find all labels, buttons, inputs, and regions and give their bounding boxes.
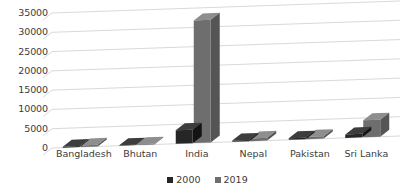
bar-series-group	[0, 0, 415, 160]
y-axis-tick-label: 25000	[2, 47, 48, 57]
x-axis-tick-label: Sri Lanka	[321, 148, 411, 160]
legend-label: 2000	[176, 175, 200, 185]
x-axis: BangladeshBhutanIndiaNepalPakistanSri La…	[0, 148, 415, 166]
plot-area	[0, 0, 415, 160]
legend-item[interactable]: 2000	[167, 175, 200, 185]
bar	[176, 130, 193, 144]
y-axis-tick-label: 10000	[2, 104, 48, 114]
legend-label: 2019	[224, 175, 248, 185]
legend: 20002019	[0, 172, 415, 188]
legend-swatch-icon	[167, 177, 173, 183]
y-axis-tick-label: 20000	[2, 66, 48, 76]
y-axis: 05000100001500020000250003000035000	[0, 0, 48, 160]
column-chart: 05000100001500020000250003000035000 Bang…	[0, 0, 415, 194]
y-axis-tick-label: 30000	[2, 27, 48, 37]
bar-side-face	[211, 13, 220, 143]
y-axis-tick-label: 15000	[2, 85, 48, 95]
y-axis-tick-label: 5000	[2, 124, 48, 134]
legend-item[interactable]: 2019	[215, 175, 248, 185]
y-axis-tick-label: 35000	[2, 8, 48, 18]
bar	[345, 134, 362, 138]
legend-swatch-icon	[215, 177, 221, 183]
